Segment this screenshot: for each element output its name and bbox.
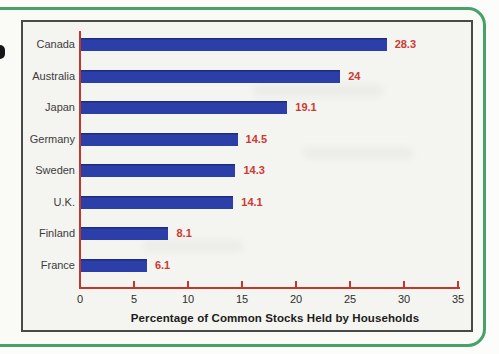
- x-tick-mark: [187, 281, 189, 287]
- x-tick-label: 25: [337, 293, 363, 306]
- category-label: Japan: [23, 100, 75, 114]
- x-tick-label: 10: [175, 293, 201, 306]
- x-tick-mark: [295, 281, 297, 287]
- category-label: Finland: [23, 226, 75, 240]
- x-tick-mark: [241, 281, 243, 287]
- x-tick-label: 35: [445, 293, 471, 306]
- category-label: Canada: [23, 37, 75, 51]
- x-tick-label: 20: [283, 293, 309, 306]
- bar: [81, 101, 287, 114]
- bar: [81, 38, 387, 51]
- category-label: Australia: [23, 69, 75, 83]
- value-label: 19.1: [295, 100, 316, 114]
- category-label: Sweden: [23, 163, 75, 177]
- value-label: 28.3: [395, 37, 416, 51]
- x-tick-mark: [349, 281, 351, 287]
- bar: [81, 70, 340, 83]
- value-label: 24: [348, 69, 360, 83]
- bar: [81, 227, 168, 240]
- x-tick-label: 30: [391, 293, 417, 306]
- chart-box: Percentage of Common Stocks Held by Hous…: [21, 20, 473, 332]
- x-axis-title: Percentage of Common Stocks Held by Hous…: [80, 312, 470, 324]
- bar: [81, 196, 233, 209]
- bar: [81, 164, 235, 177]
- value-label: 14.1: [241, 195, 262, 209]
- scan-artifact: [143, 240, 243, 252]
- x-tick-label: 5: [121, 293, 147, 306]
- bar: [81, 259, 147, 272]
- category-label: Germany: [23, 132, 75, 146]
- x-tick-mark: [133, 281, 135, 287]
- x-tick-mark: [403, 281, 405, 287]
- x-tick-mark: [457, 281, 459, 287]
- value-label: 14.5: [246, 132, 267, 146]
- bar: [81, 133, 238, 146]
- category-label: France: [23, 258, 75, 272]
- scan-artifact: [253, 84, 383, 97]
- scan-artifact: [303, 147, 413, 159]
- category-label: U.K.: [23, 195, 75, 209]
- scanned-page: Percentage of Common Stocks Held by Hous…: [0, 0, 499, 354]
- x-tick-label: 15: [229, 293, 255, 306]
- value-label: 14.3: [243, 163, 264, 177]
- x-axis-line: [79, 287, 460, 289]
- x-tick-label: 0: [67, 293, 93, 306]
- value-label: 8.1: [176, 226, 191, 240]
- value-label: 6.1: [155, 258, 170, 272]
